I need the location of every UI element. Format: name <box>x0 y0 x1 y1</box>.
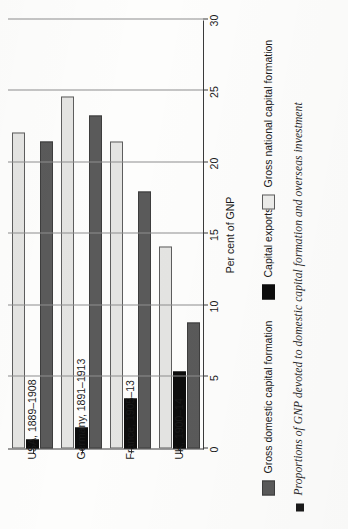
figure-caption: Proportions of GNP devoted to domestic c… <box>292 9 304 495</box>
caption-bullet-icon <box>296 503 304 511</box>
bar <box>159 246 172 448</box>
gridline <box>8 304 203 305</box>
rotated-page-canvas: 051015202530 UK, 1900–14France, 1905–13G… <box>0 0 348 529</box>
bar-chart-figure: 051015202530 UK, 1900–14France, 1905–13G… <box>0 0 348 529</box>
gridline <box>8 233 203 234</box>
x-axis-tick-label: 25 <box>208 85 220 97</box>
bar-group <box>159 20 200 448</box>
x-axis-title: Per cent of GNP <box>224 20 236 449</box>
legend-swatch-icon <box>262 480 275 495</box>
gridline <box>8 376 203 377</box>
x-axis-tick-label: 20 <box>208 157 220 169</box>
plot-area-wrapper: 051015202530 UK, 1900–14France, 1905–13G… <box>8 14 243 495</box>
legend-swatch-icon <box>262 194 275 209</box>
bar <box>138 191 151 448</box>
x-axis-tick-label: 15 <box>208 228 220 240</box>
x-axis-tick-label: 30 <box>208 14 220 26</box>
bar <box>187 322 200 448</box>
bar <box>12 132 25 448</box>
gridline <box>8 90 203 91</box>
x-axis-tick-label: 5 <box>208 374 220 380</box>
legend-label: Gross national capital formation <box>262 39 274 187</box>
gridline <box>8 18 203 19</box>
legend-item: Gross domestic capital formation <box>262 320 275 495</box>
chart-legend: Gross domestic capital formationCapital … <box>258 14 278 495</box>
gridline <box>8 161 203 162</box>
x-axis-tick-label: 0 <box>208 446 220 452</box>
bar <box>40 141 53 448</box>
bar <box>61 96 74 448</box>
bar <box>110 141 123 448</box>
legend-item: Capital exports <box>262 207 275 299</box>
legend-swatch-icon <box>262 284 275 299</box>
legend-item: Gross national capital formation <box>262 39 275 209</box>
legend-label: Capital exports <box>262 207 274 277</box>
legend-label: Gross domestic capital formation <box>262 320 274 473</box>
bar <box>89 115 102 448</box>
x-axis-tick-label: 10 <box>208 300 220 312</box>
